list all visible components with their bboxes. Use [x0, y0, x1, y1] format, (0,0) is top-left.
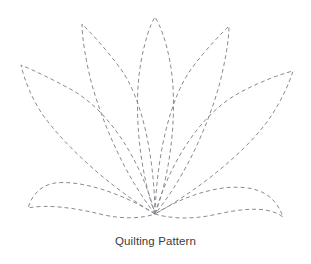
quilting-pattern-page: Quilting Pattern	[0, 0, 311, 264]
petal-bottom-left	[28, 183, 155, 218]
petal-center	[137, 17, 173, 214]
page-caption: Quilting Pattern	[0, 234, 311, 249]
petal-inner-left	[82, 24, 155, 214]
petal-outer-right	[155, 71, 293, 214]
petal-inner-right	[155, 26, 229, 214]
lotus-pattern-illustration	[0, 0, 311, 234]
petal-bottom-right	[155, 187, 283, 218]
petal-outer-left	[21, 65, 155, 214]
petal-group	[21, 17, 293, 218]
